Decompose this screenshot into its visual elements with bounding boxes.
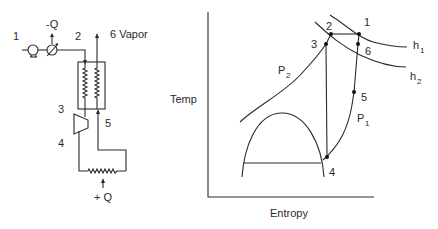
curve-label-h1: h 1 bbox=[413, 39, 425, 55]
isobar-p1 bbox=[323, 34, 359, 160]
point-label-3: 3 bbox=[311, 38, 317, 50]
saturation-dome bbox=[242, 113, 324, 177]
state-label-5: 5 bbox=[105, 117, 111, 129]
h1-subscript: 1 bbox=[420, 46, 425, 55]
x-axis-label: Entropy bbox=[270, 207, 308, 219]
point-label-1: 1 bbox=[364, 16, 370, 28]
state-point-6 bbox=[356, 42, 360, 46]
state-label-2: 2 bbox=[75, 30, 81, 42]
diagram-canvas: 1 -Q 2 6 Vapor 3 bbox=[0, 0, 438, 229]
ts-axes bbox=[208, 12, 374, 197]
h1-letter: h bbox=[413, 39, 419, 51]
p1-letter: P bbox=[357, 112, 364, 124]
state-label-1: 1 bbox=[13, 30, 19, 42]
y-axis-label: Temp bbox=[170, 93, 197, 105]
line-2 bbox=[57, 50, 85, 62]
heater-coil-icon bbox=[88, 169, 126, 173]
expander-icon bbox=[74, 114, 88, 134]
p2-subscript: 2 bbox=[286, 71, 291, 80]
process-schematic: 1 -Q 2 6 Vapor 3 bbox=[13, 18, 148, 203]
cooler-icon bbox=[47, 43, 58, 56]
state-point-4 bbox=[325, 155, 329, 159]
point-label-6: 6 bbox=[365, 45, 371, 57]
state-label-4: 4 bbox=[58, 137, 64, 149]
state-label-3: 3 bbox=[58, 103, 64, 115]
process-line-3-4 bbox=[326, 44, 327, 157]
heat-added-label: + Q bbox=[94, 191, 112, 203]
point-label-2: 2 bbox=[326, 20, 332, 32]
pump-icon bbox=[28, 45, 38, 57]
curve-label-p2: P 2 bbox=[278, 64, 291, 80]
state-point-5 bbox=[352, 90, 356, 94]
hx-coil-right bbox=[95, 62, 99, 109]
hx-coil-left bbox=[83, 62, 87, 109]
line-5 bbox=[98, 112, 126, 171]
h2-letter: h bbox=[410, 70, 416, 82]
p2-letter: P bbox=[278, 64, 285, 76]
h2-subscript: 2 bbox=[417, 77, 422, 86]
state-point-2 bbox=[329, 32, 333, 36]
heat-removed-label: -Q bbox=[46, 18, 59, 30]
curve-label-h2: h 2 bbox=[410, 70, 422, 86]
curve-label-p1: P 1 bbox=[357, 112, 370, 128]
point-label-4: 4 bbox=[329, 166, 335, 178]
line-4 bbox=[79, 131, 88, 171]
vapor-label: 6 Vapor bbox=[110, 28, 148, 40]
state-point-3 bbox=[324, 42, 328, 46]
ts-diagram: Temp Entropy 1 2 3 4 5 6 P 2 bbox=[170, 12, 425, 219]
state-point-1 bbox=[357, 32, 361, 36]
point-label-5: 5 bbox=[361, 91, 367, 103]
p1-subscript: 1 bbox=[365, 119, 370, 128]
